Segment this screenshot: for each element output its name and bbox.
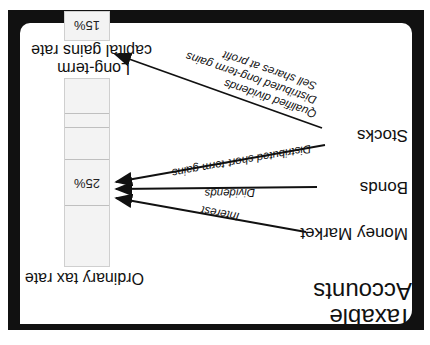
ordinary-rate-value: 25% (65, 176, 109, 191)
bar-segment-divider (65, 159, 109, 160)
long-term-label-line-1: Long-term (57, 59, 130, 77)
bar-segment-divider (65, 127, 109, 128)
flow-label-dividends: Dividends (205, 187, 256, 199)
long-term-rate-value: 15% (65, 18, 109, 33)
ordinary-rate-label: Ordinary tax rate (25, 269, 144, 287)
bar-segment-divider (65, 113, 109, 114)
tax-rate-bar: 25% (64, 78, 110, 267)
long-term-label-line-2: capital gains rate (31, 41, 152, 59)
long-term-rate-box: 15% (64, 11, 110, 41)
diagram-rotated-180: Taxable Accounts Money Market Bonds Stoc… (0, 0, 430, 345)
bar-segment-divider (65, 205, 109, 206)
